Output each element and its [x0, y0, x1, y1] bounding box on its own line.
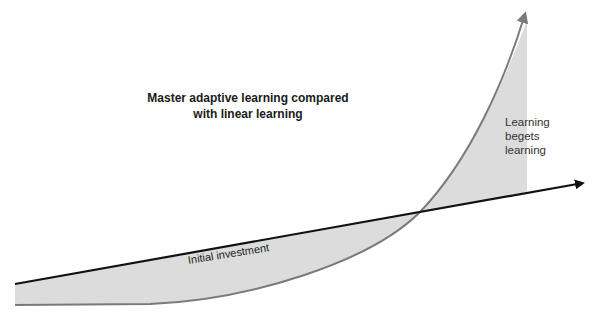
shaded-region	[15, 20, 527, 305]
label-line-1: Learning	[505, 115, 550, 129]
title-line-2: with linear learning	[118, 106, 378, 122]
diagram-title: Master adaptive learning compared with l…	[118, 90, 378, 122]
label-line-2: begets	[505, 129, 550, 143]
label-line-3: learning	[505, 143, 550, 157]
title-line-1: Master adaptive learning compared	[118, 90, 378, 106]
learning-begets-learning-label: Learning begets learning	[505, 115, 550, 157]
